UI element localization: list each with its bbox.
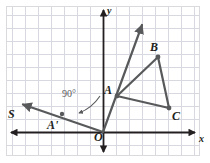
point-A-prime-dot — [60, 112, 64, 116]
point-B-dot — [156, 55, 161, 60]
figure-canvas — [0, 0, 210, 163]
point-label-A: A — [104, 84, 112, 96]
point-label-C: C — [172, 110, 180, 122]
point-label-O: O — [94, 131, 103, 143]
point-label-S: S — [8, 108, 15, 120]
point-label-B: B — [150, 41, 158, 53]
point-label-A-prime: A' — [47, 119, 58, 131]
axis-label-y: y — [107, 6, 111, 16]
coordinate-plane-figure: A B C A' S O y x 90° — [0, 0, 210, 163]
point-A-dot — [115, 94, 120, 99]
figure-background — [0, 0, 210, 163]
point-C-dot — [167, 106, 172, 111]
axis-label-x: x — [199, 134, 204, 144]
angle-label-90: 90° — [62, 89, 76, 99]
